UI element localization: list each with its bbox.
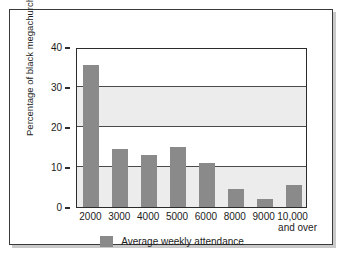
y-tick-mark-40 <box>65 47 70 49</box>
y-tick-mark-10 <box>65 167 70 169</box>
y-tick-mark-0 <box>65 207 70 209</box>
gridline <box>77 126 306 127</box>
bar-9000 <box>257 199 273 207</box>
legend-swatch-average-weekly-attendance <box>100 236 113 247</box>
y-tick-label-40: 40 <box>28 43 62 53</box>
y-tick-label-0: 0 <box>28 203 62 213</box>
figure-frame: Percentage of black megachurches 0102030… <box>9 9 333 245</box>
y-tick-label-30: 30 <box>28 83 62 93</box>
y-tick-mark-30 <box>65 87 70 89</box>
bar-8000 <box>228 189 244 207</box>
bar-5000 <box>170 147 186 207</box>
y-tick-label-20: 20 <box>28 123 62 133</box>
y-tick-mark-20 <box>65 127 70 129</box>
x-tick-sublabel-10000: and over <box>270 222 326 233</box>
bar-6000 <box>199 163 215 207</box>
gridline <box>77 86 306 87</box>
plot-area <box>76 48 307 208</box>
bar-4000 <box>141 155 157 207</box>
chart-legend: Average weekly attendance <box>10 236 334 247</box>
bar-10000 <box>286 185 302 207</box>
x-tick-label-10000: 10,000 <box>270 211 316 222</box>
y-tick-label-10: 10 <box>28 163 62 173</box>
bar-3000 <box>112 149 128 207</box>
bar-2000 <box>83 65 99 207</box>
plot-band <box>77 87 306 127</box>
chart-screenshot: Percentage of black megachurches 0102030… <box>0 0 346 258</box>
legend-label-average-weekly-attendance: Average weekly attendance <box>121 236 244 247</box>
